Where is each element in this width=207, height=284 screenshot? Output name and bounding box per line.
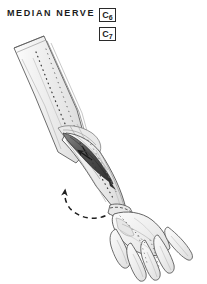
root-label-c6: C6: [99, 8, 116, 22]
root-label-c7-subscript: 7: [109, 33, 113, 40]
median-nerve-diagram: [0, 0, 207, 284]
root-label-c7: C7: [99, 27, 116, 41]
page-title: MEDIAN NERVE: [7, 8, 95, 19]
root-label-c6-subscript: 6: [109, 14, 113, 21]
hand: [110, 212, 192, 281]
